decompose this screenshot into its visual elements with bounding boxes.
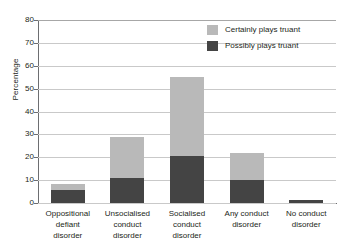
gridline-0: [38, 203, 336, 204]
bar-segment-possibly[interactable]: [230, 180, 264, 203]
bar-segment-possibly[interactable]: [289, 200, 323, 203]
legend-swatch-possibly-icon: [207, 41, 218, 51]
bar-segment-possibly[interactable]: [170, 156, 204, 203]
bar-segment-possibly[interactable]: [51, 190, 85, 203]
y-tick-label-40: 40: [8, 108, 34, 116]
y-tick-label-70: 70: [8, 39, 34, 47]
y-tick-label-20: 20: [8, 153, 34, 161]
x-axis-label-line: No conduct: [267, 208, 345, 219]
legend-label-possibly: Possibly plays truant: [225, 41, 298, 51]
chart-legend: Certainly plays truant Possibly plays tr…: [207, 24, 343, 56]
legend-swatch-certainly-icon: [207, 25, 218, 35]
y-tick-label-0: 0: [8, 199, 34, 207]
x-axis-label: No conductdisorder: [267, 208, 345, 230]
x-axis-label-line: disorder: [267, 219, 345, 230]
bar-group[interactable]: [170, 20, 204, 203]
bar-segment-certainly[interactable]: [110, 137, 144, 178]
bar-group[interactable]: [51, 20, 85, 203]
x-axis-label-line: disorder: [148, 230, 226, 241]
bar-segment-certainly[interactable]: [170, 77, 204, 156]
y-tick-label-60: 60: [8, 62, 34, 70]
legend-item-possibly: Possibly plays truant: [207, 40, 343, 51]
bar-segment-certainly[interactable]: [230, 153, 264, 180]
stacked-bar-chart: Percentage 80706050403020100 Oppositiona…: [0, 0, 346, 251]
y-tick-label-10: 10: [8, 176, 34, 184]
legend-label-certainly: Certainly plays truant: [225, 25, 300, 35]
bar-segment-possibly[interactable]: [110, 178, 144, 203]
bar-segment-certainly[interactable]: [51, 184, 85, 191]
bar-group[interactable]: [110, 20, 144, 203]
y-tick-label-80: 80: [8, 16, 34, 24]
legend-item-certainly: Certainly plays truant: [207, 24, 343, 35]
y-tick-label-50: 50: [8, 85, 34, 93]
y-tick-label-30: 30: [8, 130, 34, 138]
